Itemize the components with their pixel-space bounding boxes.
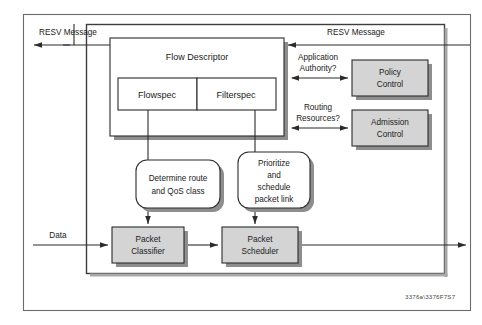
policy-control-label-line1: Policy <box>379 68 402 77</box>
figure-caption: 3376a\3376F7S7 <box>405 293 456 300</box>
prioritize-line-2: and <box>267 171 281 180</box>
packet-classifier-box[interactable]: Packet Classifier <box>112 227 188 267</box>
filterspec-label: Filterspec <box>216 90 256 100</box>
prioritize-line-4: packet link <box>255 195 295 204</box>
admission-control-box[interactable]: Admission Control <box>352 110 432 150</box>
prioritize-line-3: schedule <box>258 183 291 192</box>
admission-control-label-line1: Admission <box>371 118 409 127</box>
admission-control-label-line2: Control <box>377 130 404 139</box>
routing-resources-label-line2: Resources? <box>296 114 340 123</box>
determine-route-line-2: and QoS class <box>151 187 204 196</box>
resv-message-label-right: RESV Message <box>327 28 385 37</box>
data-label: Data <box>49 231 67 240</box>
packet-scheduler-label-line2: Scheduler <box>242 247 279 256</box>
determine-route-callout[interactable]: Determine route and QoS class <box>136 160 224 212</box>
filterspec-box[interactable]: Filterspec <box>197 78 276 110</box>
packet-scheduler-label-line1: Packet <box>247 235 273 244</box>
flowspec-label: Flowspec <box>138 90 177 100</box>
application-authority-label-line1: Application <box>298 53 339 62</box>
packet-classifier-label-line1: Packet <box>135 235 161 244</box>
diagram-root: Flow Descriptor Flowspec Filterspec Poli… <box>0 0 482 325</box>
prioritize-schedule-callout[interactable]: Prioritize and schedule packet link <box>238 152 314 212</box>
determine-route-line-1: Determine route <box>149 174 208 183</box>
packet-scheduler-box[interactable]: Packet Scheduler <box>222 227 302 267</box>
flow-descriptor-label: Flow Descriptor <box>166 52 229 62</box>
prioritize-line-1: Prioritize <box>258 159 290 168</box>
packet-classifier-label-line2: Classifier <box>131 247 165 256</box>
routing-resources-label-line1: Routing <box>304 103 333 112</box>
policy-control-box[interactable]: Policy Control <box>352 60 432 100</box>
application-authority-label-line2: Authority? <box>300 64 337 73</box>
flowspec-box[interactable]: Flowspec <box>118 78 197 110</box>
resv-message-label-left: RESV Message <box>39 28 97 37</box>
diagram-canvas: Flow Descriptor Flowspec Filterspec Poli… <box>0 0 482 325</box>
policy-control-label-line2: Control <box>377 80 404 89</box>
